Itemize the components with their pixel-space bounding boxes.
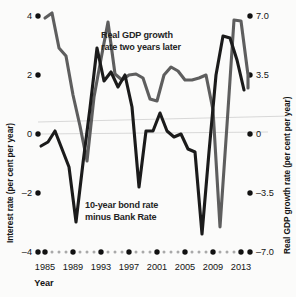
left-axis-title: Interest rate (per cent per year) [5, 123, 15, 243]
right-tick-dot-neg7 [247, 249, 252, 254]
x-tick-dot-1991 [86, 251, 89, 254]
x-tick-dot-2006 [191, 251, 194, 254]
chart-figure: 4 2 0 –2 –4 7.0 3.5 0 –3.5 –7.0 [0, 0, 296, 297]
right-axis-title: Real GDP growth rate (per cent per year) [282, 96, 292, 254]
left-tick-dot-neg2 [35, 190, 40, 195]
left-tick-dot-neg4 [35, 249, 40, 254]
year-label-2001: 2001 [147, 262, 167, 272]
left-tick-label-0: 0 [27, 129, 32, 139]
left-tick-dot-4 [35, 13, 40, 18]
x-tick-dot-1994 [107, 251, 110, 254]
annotation-bond-line2: minus Bank Rate [85, 212, 157, 222]
x-tick-dot-1993 [98, 249, 103, 254]
x-tick-dot-2011 [226, 251, 229, 254]
right-tick-label-3p5: 3.5 [256, 70, 269, 80]
x-tick-dot-2004 [177, 251, 180, 254]
x-tick-dot-2005 [182, 249, 187, 254]
right-tick-label-7: 7.0 [256, 11, 269, 21]
x-tick-dot-2003 [170, 251, 173, 254]
x-tick-dot-1987 [58, 251, 61, 254]
x-tick-dot-2008 [205, 251, 208, 254]
year-label-2009: 2009 [203, 262, 223, 272]
right-tick-label-0: 0 [256, 129, 261, 139]
left-tick-label-4: 4 [27, 11, 32, 21]
x-tick-dot-1988 [65, 251, 68, 254]
year-label-2013: 2013 [231, 262, 251, 272]
x-tick-dot-1996 [121, 251, 124, 254]
x-tick-dot-2007 [198, 251, 201, 254]
annotation-bond-line1: 10-year bond rate [85, 200, 158, 210]
right-tick-dot-7 [247, 13, 252, 18]
x-tick-dot-1999 [142, 251, 145, 254]
x-tick-dot-2009 [210, 249, 215, 254]
right-tick-dot-neg3p5 [247, 190, 252, 195]
x-tick-dot-2000 [149, 251, 152, 254]
left-tick-dot-2 [35, 72, 40, 77]
year-label-2005: 2005 [175, 262, 195, 272]
x-tick-dot-1989 [70, 249, 75, 254]
dual-axis-line-chart: 4 2 0 –2 –4 7.0 3.5 0 –3.5 –7.0 [0, 0, 296, 297]
x-tick-dot-2012 [233, 251, 236, 254]
x-axis-title: Year [34, 278, 54, 288]
x-tick-dot-2013 [238, 249, 243, 254]
annotation-gdp-line2: rate two years later [101, 42, 182, 52]
x-tick-dot-1986 [51, 251, 54, 254]
left-tick-label-neg2: –2 [22, 188, 32, 198]
annotation-gdp-line1: Real GDP growth [101, 30, 173, 40]
x-tick-dot-2002 [163, 251, 166, 254]
x-tick-dot-1990 [79, 251, 82, 254]
x-tick-dot-1992 [93, 251, 96, 254]
year-label-1993: 1993 [91, 262, 111, 272]
left-tick-label-2: 2 [27, 70, 32, 80]
x-tick-dot-2001 [154, 249, 159, 254]
x-tick-dot-1998 [135, 251, 138, 254]
x-tick-dot-1985 [42, 249, 47, 254]
x-tick-dot-1995 [114, 251, 117, 254]
right-tick-label-neg3p5: –3.5 [256, 188, 274, 198]
right-tick-dot-0 [247, 131, 252, 136]
right-tick-label-neg7: –7.0 [256, 247, 274, 257]
year-label-1989: 1989 [63, 262, 83, 272]
x-tick-dot-1997 [126, 249, 131, 254]
year-label-1997: 1997 [119, 262, 139, 272]
left-tick-label-neg4: –4 [22, 247, 32, 257]
left-tick-dot-0 [35, 131, 40, 136]
year-label-1985: 1985 [35, 262, 55, 272]
x-tick-dot-2010 [219, 251, 222, 254]
